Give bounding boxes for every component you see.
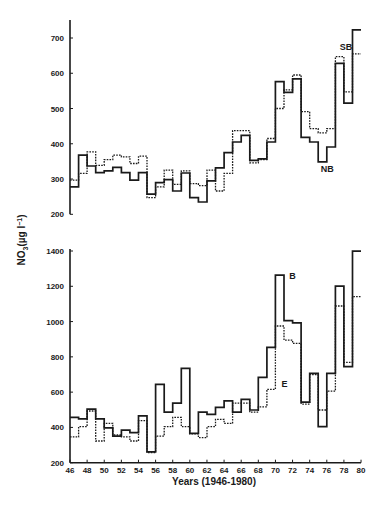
x-tick-label: 52: [117, 466, 126, 475]
x-tick-label: 76: [322, 466, 331, 475]
x-tick-label: 58: [168, 466, 177, 475]
y-tick-label: 200: [51, 459, 65, 468]
x-tick-label: 66: [237, 466, 246, 475]
y-tick-label: 300: [51, 175, 65, 184]
x-tick-label: 70: [271, 466, 280, 475]
y-tick-label: 400: [51, 140, 65, 149]
svg-text:NO3(µg l−1): NO3(µg l−1): [16, 215, 29, 266]
x-tick-label: 56: [151, 466, 160, 475]
series-label-e: E: [281, 379, 287, 389]
x-tick-label: 68: [254, 466, 263, 475]
y-tick-label: 500: [51, 105, 65, 114]
y-tick-label: 600: [51, 69, 65, 78]
x-tick-label: 46: [66, 466, 75, 475]
bottom-panel-b-e: 2004006008001000120014004648505254565860…: [46, 247, 366, 475]
x-tick-label: 48: [83, 466, 92, 475]
x-tick-label: 50: [100, 466, 109, 475]
x-tick-label: 60: [185, 466, 194, 475]
series-sb-line: [70, 54, 361, 198]
y-tick-label: 1200: [46, 282, 64, 291]
nitrate-step-chart: 200300400500600700SBNB 20040060080010001…: [0, 0, 384, 505]
x-tick-label: 64: [220, 466, 229, 475]
series-label-b: B: [289, 271, 296, 281]
y-title-main: NO: [16, 250, 27, 265]
y-title-sup: −1: [16, 218, 23, 226]
x-axis-title: Years (1946-1980): [172, 476, 256, 487]
series-label-sb: SB: [340, 42, 353, 52]
y-tick-label: 200: [51, 210, 65, 219]
x-tick-label: 80: [357, 466, 366, 475]
x-tick-label: 54: [134, 466, 143, 475]
y-tick-label: 800: [51, 353, 65, 362]
y-tick-label: 1400: [46, 247, 64, 256]
x-tick-label: 62: [203, 466, 212, 475]
y-title-close: ): [16, 215, 27, 218]
top-panel-nb-sb: 200300400500600700SBNB: [51, 20, 361, 219]
y-tick-label: 1000: [46, 318, 64, 327]
y-axis-title: NO3(µg l−1): [16, 215, 29, 266]
y-title-rest: (µg l: [16, 226, 27, 247]
chart-figure: 200300400500600700SBNB 20040060080010001…: [0, 0, 384, 505]
y-tick-label: 700: [51, 34, 65, 43]
x-tick-label: 78: [339, 466, 348, 475]
series-label-nb: NB: [321, 164, 334, 174]
y-tick-label: 400: [51, 423, 65, 432]
x-tick-label: 72: [288, 466, 297, 475]
y-tick-label: 600: [51, 388, 65, 397]
x-tick-label: 74: [305, 466, 314, 475]
